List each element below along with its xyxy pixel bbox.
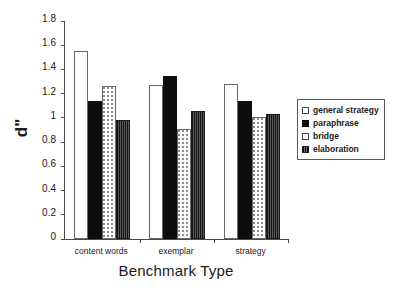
bar: [88, 101, 102, 239]
plot-area: 00.20.40.60.811.21.41.61.8: [64, 22, 288, 240]
bar: [102, 86, 116, 239]
x-axis-category-label: content words: [64, 246, 139, 256]
x-axis-category-label: exemplar: [139, 246, 214, 256]
y-axis-tick-label: 1.8: [42, 14, 56, 24]
legend-swatch-icon: [302, 107, 309, 114]
legend-item: elaboration: [302, 143, 379, 155]
y-axis-tick-label: 0.2: [42, 208, 56, 218]
bar: [116, 120, 130, 239]
x-axis-tick-mark: [288, 239, 289, 243]
y-axis-tick-label: 1.6: [42, 38, 56, 48]
bar: [252, 117, 266, 239]
bar: [163, 76, 177, 240]
bar-chart: d" 00.20.40.60.811.21.41.61.8 content wo…: [0, 0, 395, 297]
bar: [74, 51, 88, 239]
y-axis-title: d": [12, 98, 32, 158]
bar: [266, 114, 280, 239]
y-axis-tick-label: 1: [50, 111, 56, 121]
chart-legend: general strategyparaphrasebridgeelaborat…: [297, 99, 385, 160]
legend-item-label: paraphrase: [313, 119, 359, 128]
bar: [238, 101, 252, 239]
bar: [224, 84, 238, 239]
bar-group: [214, 22, 289, 239]
legend-swatch-icon: [302, 133, 309, 140]
x-axis-category-label: strategy: [213, 246, 288, 256]
bar: [149, 85, 163, 239]
bar-group: [65, 22, 140, 239]
legend-swatch-icon: [302, 120, 309, 127]
bar-group: [140, 22, 215, 239]
x-axis-title: Benchmark Type: [64, 262, 288, 279]
y-axis-tick-label: 1.2: [42, 87, 56, 97]
legend-item: general strategy: [302, 104, 379, 116]
y-axis-tick-label: 0.6: [42, 159, 56, 169]
legend-item-label: bridge: [313, 132, 339, 141]
bar: [177, 129, 191, 239]
y-axis-tick-label: 0: [50, 232, 56, 242]
y-axis-tick-label: 1.4: [42, 62, 56, 72]
legend-swatch-icon: [302, 146, 309, 153]
legend-item: bridge: [302, 130, 379, 142]
x-axis-tick-mark: [140, 239, 141, 243]
legend-item: paraphrase: [302, 117, 379, 129]
y-axis-tick-label: 0.8: [42, 135, 56, 145]
legend-item-label: elaboration: [313, 145, 359, 154]
bar: [191, 111, 205, 239]
legend-item-label: general strategy: [313, 106, 379, 115]
x-axis-tick-mark: [214, 239, 215, 243]
y-axis-tick-label: 0.4: [42, 184, 56, 194]
